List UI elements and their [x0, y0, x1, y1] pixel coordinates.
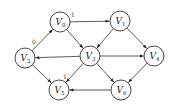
arrow-line [128, 63, 147, 82]
arrow-line [35, 56, 80, 57]
edge-weight-label: 1 [63, 73, 67, 80]
arrow-line [67, 29, 83, 48]
edge-v3-to-v2 [35, 56, 80, 57]
arrow-line [70, 21, 110, 22]
directed-graph: 101 V0V1V2V3V4V5V6 [0, 0, 177, 108]
edge-v3-to-v6 [97, 63, 114, 82]
arrow-line [127, 28, 147, 48]
edge-v4-to-v6 [128, 63, 147, 82]
node-v0: V0 [50, 12, 70, 32]
edge-weight-label: 1 [71, 11, 75, 18]
edge-v1-to-v4 [127, 28, 147, 48]
arrow-line [97, 63, 114, 82]
arrow-line [97, 29, 114, 48]
node-v3: V3 [80, 46, 100, 66]
arrow-line [32, 65, 51, 83]
edge-v2-to-v5 [32, 65, 51, 83]
edge-weight-label: 0 [32, 38, 36, 45]
node-layer: V0V1V2V3V4V5V6 [15, 11, 164, 100]
node-v5: V5 [49, 80, 69, 100]
edge-v1-to-v3 [97, 29, 114, 48]
node-v1: V1 [110, 11, 130, 31]
edge-v0-to-v3 [67, 29, 83, 48]
edge-v3-to-v5 [66, 63, 83, 82]
node-v4: V4 [144, 46, 164, 66]
node-v2: V2 [15, 48, 35, 68]
node-v6: V6 [111, 80, 131, 100]
edge-v0-to-v1 [70, 21, 110, 22]
arrow-line [66, 63, 83, 82]
